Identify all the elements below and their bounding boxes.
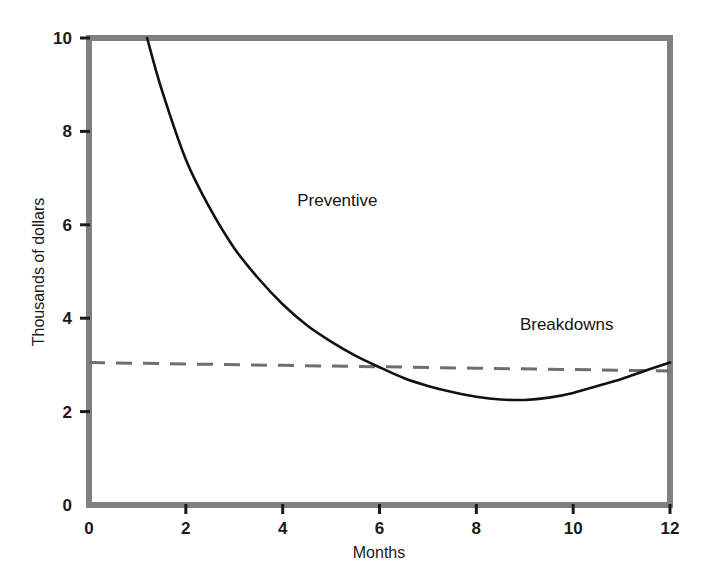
y-tick-label: 6 — [63, 216, 72, 235]
maintenance-cost-chart: 0246810 024681012 Preventive Breakdowns … — [0, 0, 719, 584]
y-tick-label: 4 — [63, 309, 73, 328]
series-label-preventive: Preventive — [297, 191, 377, 210]
x-tick-label: 2 — [181, 519, 190, 538]
y-tick-label: 0 — [63, 496, 72, 515]
y-axis-title: Thousands of dollars — [30, 198, 47, 347]
chart-background — [0, 0, 719, 584]
chart-figure: 0246810 024681012 Preventive Breakdowns … — [0, 0, 719, 584]
x-axis-title: Months — [353, 544, 405, 561]
y-tick-label: 10 — [53, 29, 72, 48]
x-tick-label: 8 — [472, 519, 481, 538]
y-tick-label: 2 — [63, 403, 72, 422]
series-label-breakdowns: Breakdowns — [520, 315, 614, 334]
x-tick-label: 4 — [278, 519, 288, 538]
y-tick-label: 8 — [63, 122, 72, 141]
x-tick-label: 0 — [84, 519, 93, 538]
x-tick-label: 12 — [661, 519, 680, 538]
x-tick-label: 6 — [375, 519, 384, 538]
x-tick-label: 10 — [564, 519, 583, 538]
